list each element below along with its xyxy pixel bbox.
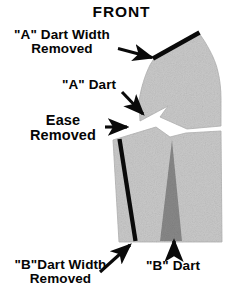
- label-b-dart-width-removed: "B"Dart Width Removed: [2, 258, 119, 286]
- page-title: FRONT: [0, 4, 243, 20]
- label-b-dart: "B" Dart: [146, 259, 200, 273]
- label-a-dart: "A" Dart: [62, 78, 116, 92]
- pattern-diagram-figure: FRONT "A" Dart Width Removed "A" Dart Ea…: [0, 0, 243, 301]
- label-a-dart-width-removed: "A" Dart Width Removed: [6, 28, 118, 56]
- upper-pattern-piece: [139, 33, 221, 129]
- arrow-a-dart-width: [118, 49, 152, 58]
- upper-piece-shape: [139, 33, 221, 129]
- label-ease-removed: Ease Removed: [21, 113, 105, 143]
- lower-pattern-piece: [113, 127, 222, 242]
